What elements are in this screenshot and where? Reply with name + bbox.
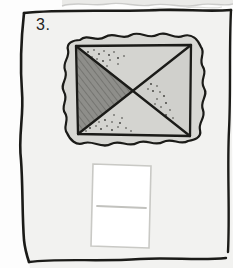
worksheet-page: 3. — [0, 0, 233, 268]
worksheet-artwork — [0, 0, 233, 268]
torn-paper-edge-behind — [62, 0, 233, 9]
question-number: 3. — [36, 17, 50, 33]
answer-box[interactable] — [91, 164, 151, 248]
